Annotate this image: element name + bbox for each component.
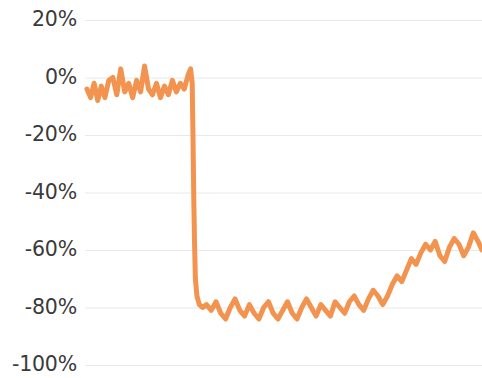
chart-plot-area [0,0,482,378]
line-chart: 20%0%-20%-40%-60%-80%-100% [0,0,482,378]
